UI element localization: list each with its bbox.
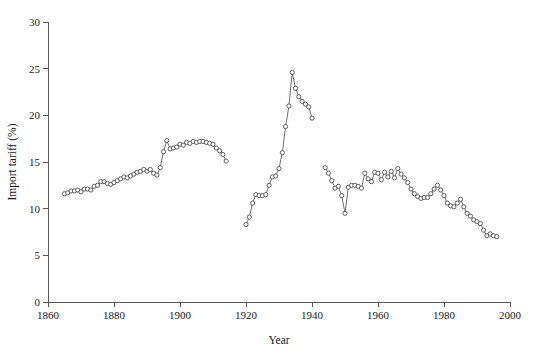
data-point-marker xyxy=(386,175,390,179)
series-line xyxy=(65,141,227,194)
data-point-marker xyxy=(359,186,363,190)
chart-axes: 0510152025301860188019001920194019601980… xyxy=(29,16,522,321)
data-point-marker xyxy=(267,183,271,187)
data-point-marker xyxy=(392,176,396,180)
data-point-marker xyxy=(452,205,456,209)
data-point-marker xyxy=(307,105,311,109)
x-tick-label: 1900 xyxy=(169,309,192,321)
chart-plot-area xyxy=(62,70,499,238)
data-point-marker xyxy=(462,205,466,209)
series-1 xyxy=(62,138,228,195)
y-axis-title: Import tariff (%) xyxy=(6,123,19,200)
y-tick-label: 25 xyxy=(29,63,41,75)
data-point-marker xyxy=(336,184,340,188)
data-point-marker xyxy=(280,151,284,155)
x-tick-label: 2000 xyxy=(499,309,522,321)
series-line xyxy=(246,72,312,224)
data-point-marker xyxy=(224,159,228,163)
data-point-marker xyxy=(429,192,433,196)
series-2 xyxy=(244,70,314,226)
chart-figure: 0510152025301860188019001920194019601980… xyxy=(0,0,536,358)
data-point-marker xyxy=(297,95,301,99)
data-point-marker xyxy=(468,214,472,218)
data-point-marker xyxy=(478,222,482,226)
x-axis-title: Year xyxy=(268,334,289,346)
data-point-marker xyxy=(165,138,169,142)
data-point-marker xyxy=(290,70,294,74)
data-point-marker xyxy=(383,170,387,174)
data-point-marker xyxy=(330,179,334,183)
data-point-marker xyxy=(161,150,165,154)
data-point-marker xyxy=(158,166,162,170)
data-point-marker xyxy=(379,178,383,182)
data-point-marker xyxy=(326,171,330,175)
data-point-marker xyxy=(284,124,288,128)
data-point-marker xyxy=(218,149,222,153)
data-point-marker xyxy=(323,166,327,170)
data-point-marker xyxy=(425,195,429,199)
data-point-marker xyxy=(251,201,255,205)
y-tick-label: 5 xyxy=(35,249,41,261)
data-point-marker xyxy=(148,167,152,171)
x-tick-label: 1940 xyxy=(301,309,324,321)
y-tick-label: 0 xyxy=(35,296,41,308)
data-point-marker xyxy=(458,197,462,201)
data-point-marker xyxy=(287,104,291,108)
x-tick-label: 1880 xyxy=(103,309,126,321)
data-point-marker xyxy=(409,187,413,191)
data-point-marker xyxy=(89,188,93,192)
y-tick-label: 20 xyxy=(29,109,41,121)
data-point-marker xyxy=(155,173,159,177)
y-tick-label: 10 xyxy=(29,203,41,215)
data-point-marker xyxy=(396,166,400,170)
data-point-marker xyxy=(399,172,403,176)
data-point-marker xyxy=(95,183,99,187)
data-point-marker xyxy=(455,201,459,205)
import-tariff-line-chart: 0510152025301860188019001920194019601980… xyxy=(0,0,536,358)
y-tick-label: 15 xyxy=(29,156,41,168)
data-point-marker xyxy=(264,193,268,197)
data-point-marker xyxy=(340,194,344,198)
data-point-marker xyxy=(406,180,410,184)
x-tick-label: 1980 xyxy=(433,309,456,321)
data-point-marker xyxy=(247,215,251,219)
data-point-marker xyxy=(310,116,314,120)
x-tick-label: 1960 xyxy=(367,309,390,321)
x-tick-label: 1860 xyxy=(37,309,60,321)
data-point-marker xyxy=(274,174,278,178)
data-point-marker xyxy=(244,222,248,226)
data-point-marker xyxy=(363,171,367,175)
data-point-marker xyxy=(369,180,373,184)
data-point-marker xyxy=(389,169,393,173)
data-point-marker xyxy=(432,187,436,191)
data-point-marker xyxy=(343,211,347,215)
series-3 xyxy=(323,166,499,239)
y-tick-label: 30 xyxy=(29,16,41,28)
data-point-marker xyxy=(435,183,439,187)
data-point-marker xyxy=(482,228,486,232)
data-point-marker xyxy=(221,152,225,156)
data-point-marker xyxy=(293,86,297,90)
data-point-marker xyxy=(442,194,446,198)
axis-lines xyxy=(48,22,510,302)
data-point-marker xyxy=(376,171,380,175)
data-point-marker xyxy=(277,166,281,170)
data-point-marker xyxy=(495,235,499,239)
data-point-marker xyxy=(402,176,406,180)
data-point-marker xyxy=(439,188,443,192)
data-point-marker xyxy=(211,142,215,146)
x-tick-label: 1920 xyxy=(235,309,258,321)
series-line xyxy=(325,168,497,237)
